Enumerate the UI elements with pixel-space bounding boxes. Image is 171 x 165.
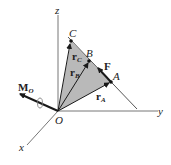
point-label-C: C <box>69 27 77 39</box>
moment-diagram: z y x O C B A F MO rC rB rA <box>0 0 171 165</box>
point-B <box>87 59 91 63</box>
x-axis <box>27 111 58 145</box>
point-label-B: B <box>86 47 93 59</box>
axis-label-y: y <box>157 105 163 117</box>
label-rA-sub: A <box>100 96 106 104</box>
point-label-A: A <box>112 70 120 82</box>
origin-label: O <box>55 114 63 126</box>
moment-vector-MO <box>20 94 58 111</box>
label-rA: rA <box>96 90 106 104</box>
moment-label: MO <box>18 81 33 95</box>
axis-label-z: z <box>54 4 60 16</box>
moment-label-sub: O <box>28 87 33 95</box>
label-rB-sub: B <box>74 72 80 80</box>
moment-label-main: M <box>18 81 29 93</box>
axis-label-x: x <box>18 141 24 153</box>
point-C <box>69 39 73 43</box>
label-rC-sub: C <box>77 56 82 64</box>
force-label: F <box>104 60 111 72</box>
